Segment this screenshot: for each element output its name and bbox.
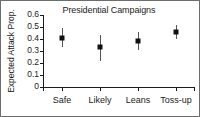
x-axis-endcap [43,87,44,91]
x-tick-mark [62,87,63,91]
x-tick-label: Likely [88,95,111,105]
y-tick-mark [40,15,44,16]
x-axis-line [43,87,195,88]
x-tick-label: Toss-up [160,95,192,105]
data-point-marker [98,45,103,50]
y-tick-label: 0.5 [27,21,39,31]
y-tick-mark [40,51,44,52]
x-tick-label: Safe [53,95,72,105]
y-tick-mark [40,75,44,76]
y-axis-label: Expected Attack Prop. [6,3,16,99]
x-tick-mark [138,87,139,91]
y-tick-mark [40,39,44,40]
data-point-marker [136,38,141,43]
y-tick-label: 0.6 [27,9,39,19]
plot-area: 00.10.20.30.40.50.6 SafeLikelyLeansToss-… [43,15,195,87]
x-axis-endcap [194,87,195,91]
x-tick-mark [100,87,101,91]
y-tick-label: 0.3 [27,45,39,55]
data-point-marker [60,35,65,40]
data-point-marker [174,29,179,34]
y-tick-label: 0 [34,81,39,91]
y-tick-mark [40,63,44,64]
x-tick-label: Leans [126,95,151,105]
y-tick-label: 0.4 [27,33,39,43]
y-tick-mark [40,27,44,28]
y-tick-label: 0.1 [27,69,39,79]
chart-title: Presidential Campaigns [47,5,171,15]
y-tick-label: 0.2 [27,57,39,67]
x-tick-mark [176,87,177,91]
chart-figure: Presidential Campaigns Expected Attack P… [0,0,200,117]
